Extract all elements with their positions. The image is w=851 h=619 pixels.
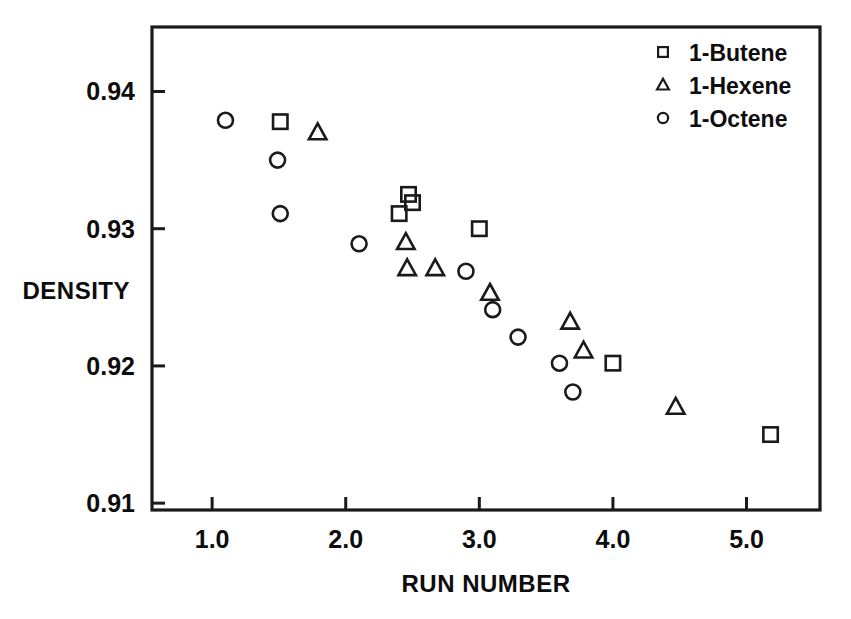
x-tick-label: 5.0: [729, 525, 764, 553]
x-tick-label: 1.0: [195, 525, 230, 553]
legend-label: 1-Butene: [689, 40, 787, 66]
data-point-circle: [552, 356, 567, 371]
y-tick-label: 0.92: [86, 352, 135, 380]
data-point-circle: [270, 153, 285, 168]
data-point-square: [606, 356, 620, 370]
data-point-triangle: [667, 398, 684, 414]
chart-canvas: 1.02.03.04.05.00.940.930.920.91RUN NUMBE…: [0, 0, 851, 619]
data-point-square: [472, 222, 486, 236]
y-tick-label: 0.91: [86, 489, 135, 517]
data-point-triangle: [575, 342, 592, 358]
data-point-triangle: [426, 259, 443, 275]
series-1-hexene: [309, 123, 685, 413]
data-point-triangle: [309, 123, 326, 139]
data-point-triangle: [561, 313, 578, 329]
marker-square: [658, 47, 668, 57]
y-axis-title: DENSITY: [22, 277, 130, 304]
marker-triangle: [657, 79, 669, 90]
data-point-circle: [352, 236, 367, 251]
x-tick-label: 3.0: [462, 525, 497, 553]
data-point-circle: [458, 264, 473, 279]
y-tick-label: 0.93: [86, 215, 135, 243]
data-point-circle: [511, 330, 526, 345]
legend-label: 1-Octene: [689, 106, 787, 132]
data-point-triangle: [397, 233, 414, 249]
data-point-square: [763, 427, 777, 441]
data-point-triangle: [398, 259, 415, 275]
data-point-triangle: [481, 284, 498, 300]
x-tick-label: 2.0: [328, 525, 363, 553]
data-point-square: [273, 114, 287, 128]
series-1-butene: [273, 114, 778, 441]
data-point-circle: [218, 113, 233, 128]
x-axis-title: RUN NUMBER: [402, 570, 571, 597]
data-point-circle: [565, 384, 580, 399]
legend-label: 1-Hexene: [689, 73, 791, 99]
legend: 1-Butene1-Hexene1-Octene: [657, 40, 791, 132]
x-tick-label: 4.0: [596, 525, 631, 553]
plot-frame: [152, 27, 820, 510]
y-tick-label: 0.94: [86, 77, 135, 105]
scatter-chart: 1.02.03.04.05.00.940.930.920.91RUN NUMBE…: [0, 0, 851, 619]
series-1-octene: [218, 113, 580, 400]
marker-circle: [658, 113, 668, 123]
data-point-circle: [273, 206, 288, 221]
data-point-circle: [485, 302, 500, 317]
